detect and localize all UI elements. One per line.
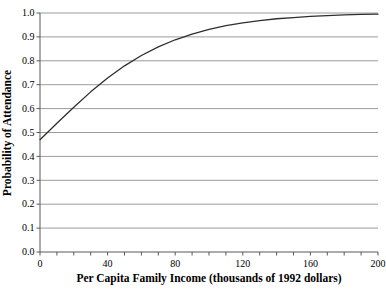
x-axis-title: Per Capita Family Income (thousands of 1… — [76, 272, 341, 285]
y-tick-label: 0.8 — [22, 55, 35, 66]
tick-labels: 0.00.10.20.30.40.50.60.70.80.91.00408012… — [22, 7, 386, 269]
axis-ticks — [37, 13, 379, 256]
attendance-probability-chart: 0.00.10.20.30.40.50.60.70.80.91.00408012… — [0, 0, 386, 296]
y-tick-label: 1.0 — [22, 7, 35, 18]
y-tick-label: 0.9 — [22, 31, 35, 42]
x-tick-label: 80 — [170, 258, 180, 269]
y-tick-label: 0.5 — [22, 127, 35, 138]
gridlines — [40, 13, 378, 228]
y-tick-label: 0.0 — [22, 246, 35, 257]
x-tick-label: 200 — [371, 258, 386, 269]
y-tick-label: 0.1 — [22, 222, 35, 233]
y-axis-title: Probability of Attendance — [1, 70, 14, 196]
x-tick-label: 40 — [103, 258, 113, 269]
y-tick-label: 0.3 — [22, 175, 35, 186]
x-tick-label: 0 — [38, 258, 43, 269]
y-tick-label: 0.6 — [22, 103, 35, 114]
x-tick-label: 160 — [303, 258, 318, 269]
attendance-probability-figure: 0.00.10.20.30.40.50.60.70.80.91.00408012… — [0, 0, 386, 296]
x-tick-label: 120 — [235, 258, 250, 269]
y-tick-label: 0.7 — [22, 79, 35, 90]
probability-curve — [40, 14, 378, 139]
y-tick-label: 0.2 — [22, 198, 35, 209]
y-tick-label: 0.4 — [22, 151, 35, 162]
